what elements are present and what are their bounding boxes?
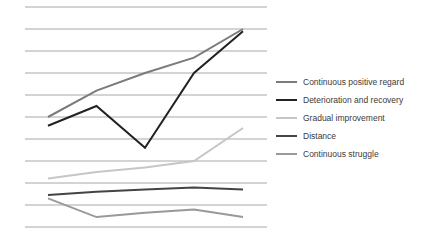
series-line [48, 128, 243, 179]
legend-swatch [276, 99, 297, 101]
series-line [48, 198, 243, 217]
legend-label: Continuous positive regard [303, 77, 404, 87]
legend-label: Gradual improvement [303, 113, 385, 123]
legend-label: Deterioration and recovery [303, 95, 403, 105]
legend-item-positive-regard: Continuous positive regard [276, 73, 404, 91]
legend-item-distance: Distance [276, 127, 404, 145]
legend-item-gradual: Gradual improvement [276, 109, 404, 127]
legend-swatch [276, 81, 297, 83]
series-line [48, 31, 243, 148]
legend-label: Distance [303, 131, 336, 141]
series-line [48, 187, 243, 195]
legend-item-struggle: Continuous struggle [276, 145, 404, 163]
series-lines [48, 29, 243, 217]
legend-swatch [276, 117, 297, 119]
legend-label: Continuous struggle [303, 149, 379, 159]
legend: Continuous positive regard Deterioration… [276, 73, 404, 163]
legend-item-deterioration: Deterioration and recovery [276, 91, 404, 109]
legend-swatch [276, 135, 297, 137]
legend-swatch [276, 153, 297, 155]
